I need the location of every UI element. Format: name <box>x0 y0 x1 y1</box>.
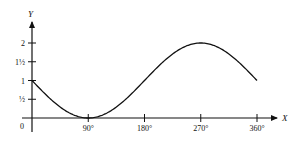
origin-label: 0 <box>20 122 24 131</box>
y-tick-label: 1 <box>21 77 25 86</box>
y-ticks: ½11½2 <box>15 39 36 104</box>
curve-line <box>32 43 257 118</box>
x-tick-label: 360° <box>249 124 264 133</box>
x-ticks: 90°180°270°360° <box>83 114 265 133</box>
y-tick-label: ½ <box>19 95 25 104</box>
x-tick-label: 270° <box>193 124 208 133</box>
x-axis-label: X <box>281 113 288 123</box>
chart: X Y 0 90°180°270°360° ½11½2 <box>0 0 299 141</box>
x-tick-label: 90° <box>83 124 94 133</box>
y-tick-label: 2 <box>21 39 25 48</box>
x-tick-label: 180° <box>137 124 152 133</box>
y-axis-label: Y <box>28 9 34 19</box>
y-tick-label: 1½ <box>15 58 25 67</box>
